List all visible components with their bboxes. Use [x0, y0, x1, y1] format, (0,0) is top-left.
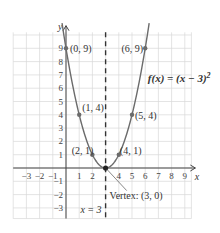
- y-tick-label: 5: [59, 97, 64, 107]
- y-tick-label: 7: [59, 70, 64, 80]
- y-tick-label: 1: [59, 150, 64, 160]
- parabola-chart: xy −3−2−112456789987654321−1−2−3 x = 3 (…: [0, 0, 220, 233]
- y-tick-label: 9: [59, 43, 64, 53]
- x-tick-label: 6: [143, 171, 148, 181]
- x-tick-label: 7: [156, 171, 161, 181]
- point-label: (6, 9): [122, 43, 144, 55]
- y-tick-label: −2: [53, 190, 63, 200]
- vertex-label: Vertex: (3, 0): [110, 190, 163, 202]
- x-axis-label: x: [194, 171, 200, 182]
- x-tick-label: −2: [35, 171, 45, 181]
- x-tick-label: 2: [90, 171, 95, 181]
- grid: [13, 32, 191, 218]
- point-label: (1, 4): [82, 102, 104, 114]
- data-point: [64, 46, 68, 50]
- y-tick-label: 8: [59, 57, 64, 67]
- x-tick-label: 1: [77, 171, 82, 181]
- data-point: [143, 46, 147, 50]
- symmetry-label: x = 3: [79, 204, 101, 215]
- function-label: f(x) = (x − 3)2: [148, 71, 211, 85]
- y-tick-label: 6: [59, 83, 64, 93]
- x-tick-label: 5: [130, 171, 135, 181]
- point-label: (5, 4): [135, 110, 157, 122]
- point-label: (4, 1): [120, 145, 142, 157]
- data-point: [77, 113, 81, 117]
- data-point: [130, 113, 134, 117]
- point-label: (2, 1): [72, 145, 94, 157]
- y-tick-label: 2: [59, 136, 64, 146]
- y-tick-label: −1: [53, 176, 63, 186]
- x-tick-label: 8: [169, 171, 174, 181]
- point-label: (0, 9): [70, 43, 92, 55]
- y-tick-label: 4: [59, 110, 64, 120]
- x-tick-label: 9: [183, 171, 188, 181]
- y-tick-label: −3: [53, 203, 63, 213]
- x-tick-label: 4: [117, 171, 122, 181]
- y-tick-label: 3: [59, 123, 64, 133]
- x-tick-label: −3: [22, 171, 32, 181]
